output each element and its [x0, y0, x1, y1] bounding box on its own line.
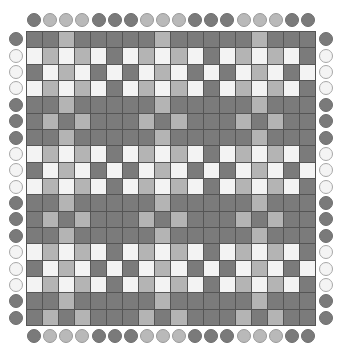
peg-right-16[interactable]: [319, 278, 333, 292]
grid-cell[interactable]: [171, 195, 186, 210]
peg-bottom-15[interactable]: [253, 329, 267, 343]
grid-cell[interactable]: [59, 310, 74, 325]
peg-left-3[interactable]: [9, 65, 23, 79]
peg-left-2[interactable]: [9, 49, 23, 63]
grid-cell[interactable]: [107, 48, 122, 63]
peg-bottom-3[interactable]: [59, 329, 73, 343]
grid-cell[interactable]: [220, 244, 235, 259]
grid-cell[interactable]: [171, 244, 186, 259]
grid-cell[interactable]: [300, 97, 315, 112]
grid-cell[interactable]: [236, 228, 251, 243]
grid-cell[interactable]: [300, 212, 315, 227]
grid-cell[interactable]: [139, 212, 154, 227]
grid-cell[interactable]: [107, 97, 122, 112]
grid-cell[interactable]: [171, 163, 186, 178]
grid-cell[interactable]: [155, 163, 170, 178]
grid-cell[interactable]: [155, 293, 170, 308]
grid-cell[interactable]: [188, 277, 203, 292]
grid-cell[interactable]: [123, 261, 138, 276]
grid-cell[interactable]: [220, 163, 235, 178]
grid-cell[interactable]: [268, 212, 283, 227]
grid-cell[interactable]: [75, 97, 90, 112]
grid-cell[interactable]: [59, 97, 74, 112]
grid-cell[interactable]: [43, 114, 58, 129]
grid-cell[interactable]: [171, 97, 186, 112]
grid-cell[interactable]: [188, 48, 203, 63]
grid-cell[interactable]: [27, 179, 42, 194]
peg-top-16[interactable]: [269, 13, 283, 27]
grid-cell[interactable]: [75, 48, 90, 63]
peg-bottom-10[interactable]: [172, 329, 186, 343]
grid-cell[interactable]: [59, 163, 74, 178]
grid-cell[interactable]: [252, 277, 267, 292]
grid-cell[interactable]: [204, 310, 219, 325]
peg-right-1[interactable]: [319, 32, 333, 46]
grid-cell[interactable]: [236, 65, 251, 80]
grid-cell[interactable]: [220, 130, 235, 145]
peg-left-12[interactable]: [9, 212, 23, 226]
grid-cell[interactable]: [188, 244, 203, 259]
grid-cell[interactable]: [75, 277, 90, 292]
grid-cell[interactable]: [220, 65, 235, 80]
grid-cell[interactable]: [268, 114, 283, 129]
grid-cell[interactable]: [27, 212, 42, 227]
grid-cell[interactable]: [284, 97, 299, 112]
peg-right-18[interactable]: [319, 311, 333, 325]
grid-cell[interactable]: [220, 97, 235, 112]
grid-cell[interactable]: [252, 244, 267, 259]
grid-cell[interactable]: [123, 293, 138, 308]
grid-cell[interactable]: [300, 228, 315, 243]
grid-cell[interactable]: [75, 32, 90, 47]
grid-cell[interactable]: [171, 81, 186, 96]
grid-cell[interactable]: [91, 146, 106, 161]
grid-cell[interactable]: [252, 48, 267, 63]
grid-cell[interactable]: [27, 65, 42, 80]
grid-cell[interactable]: [300, 48, 315, 63]
grid-cell[interactable]: [300, 114, 315, 129]
grid-cell[interactable]: [43, 310, 58, 325]
grid-cell[interactable]: [236, 48, 251, 63]
grid-cell[interactable]: [43, 163, 58, 178]
grid-cell[interactable]: [43, 32, 58, 47]
grid-cell[interactable]: [91, 228, 106, 243]
grid-cell[interactable]: [268, 195, 283, 210]
peg-top-9[interactable]: [156, 13, 170, 27]
grid-cell[interactable]: [236, 81, 251, 96]
grid-cell[interactable]: [91, 114, 106, 129]
grid-cell[interactable]: [107, 32, 122, 47]
grid-cell[interactable]: [268, 65, 283, 80]
grid-cell[interactable]: [139, 81, 154, 96]
grid-cell[interactable]: [284, 65, 299, 80]
grid-cell[interactable]: [139, 293, 154, 308]
peg-top-4[interactable]: [75, 13, 89, 27]
grid-cell[interactable]: [236, 163, 251, 178]
grid-cell[interactable]: [284, 48, 299, 63]
grid-cell[interactable]: [123, 130, 138, 145]
peg-bottom-16[interactable]: [269, 329, 283, 343]
grid-cell[interactable]: [75, 81, 90, 96]
grid-cell[interactable]: [139, 195, 154, 210]
grid-cell[interactable]: [268, 261, 283, 276]
peg-bottom-11[interactable]: [188, 329, 202, 343]
peg-left-10[interactable]: [9, 180, 23, 194]
grid-cell[interactable]: [75, 228, 90, 243]
peg-bottom-2[interactable]: [43, 329, 57, 343]
grid-cell[interactable]: [300, 130, 315, 145]
grid-cell[interactable]: [252, 293, 267, 308]
grid-cell[interactable]: [284, 261, 299, 276]
grid-cell[interactable]: [252, 179, 267, 194]
grid-cell[interactable]: [43, 81, 58, 96]
grid-cell[interactable]: [27, 97, 42, 112]
grid-cell[interactable]: [155, 81, 170, 96]
peg-left-11[interactable]: [9, 196, 23, 210]
grid-cell[interactable]: [236, 293, 251, 308]
grid-cell[interactable]: [268, 48, 283, 63]
grid-cell[interactable]: [139, 244, 154, 259]
grid-cell[interactable]: [171, 293, 186, 308]
grid-cell[interactable]: [75, 195, 90, 210]
grid-cell[interactable]: [59, 65, 74, 80]
grid-cell[interactable]: [220, 114, 235, 129]
grid-cell[interactable]: [59, 146, 74, 161]
grid-cell[interactable]: [27, 114, 42, 129]
peg-right-14[interactable]: [319, 245, 333, 259]
